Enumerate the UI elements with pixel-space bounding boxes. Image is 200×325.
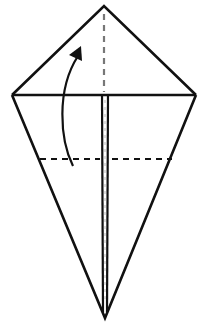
origami-diagram [0,0,200,325]
lower-kite-edges [12,95,196,318]
fold-up-arrow-icon [62,56,78,166]
center-edge-right [107,95,108,312]
kite-fold-diagram [0,0,200,325]
center-edge-left [102,95,103,312]
